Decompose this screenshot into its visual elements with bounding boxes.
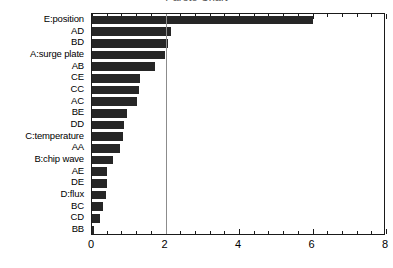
category-label: AE bbox=[72, 166, 84, 176]
x-axis-tick-label: 2 bbox=[161, 238, 167, 251]
value-axis-labels: 02468 bbox=[91, 238, 385, 256]
category-label: BB bbox=[72, 224, 84, 234]
category-axis-labels: E:positionADBDA:surge plateABCECCACBEDDC… bbox=[0, 13, 87, 235]
x-axis-tick-label: 4 bbox=[235, 238, 241, 251]
major-tick bbox=[386, 229, 387, 234]
category-label: BD bbox=[71, 37, 84, 47]
category-label: C:temperature bbox=[25, 131, 84, 141]
chart-title: Pareto Chart bbox=[0, 0, 393, 3]
category-label: BE bbox=[72, 107, 84, 117]
category-label: DE bbox=[71, 177, 84, 187]
x-axis-tick-label: 8 bbox=[382, 238, 388, 251]
x-axis-tick-label: 6 bbox=[308, 238, 314, 251]
category-label: CD bbox=[71, 212, 84, 222]
category-label: D:flux bbox=[61, 189, 84, 199]
category-label: CE bbox=[71, 72, 84, 82]
category-label: B:chip wave bbox=[34, 154, 84, 164]
category-label: A:surge plate bbox=[30, 49, 84, 59]
category-label: CC bbox=[71, 84, 84, 94]
category-label: AC bbox=[71, 96, 84, 106]
pareto-chart: Pareto Chart E:positionADBDA:surge plate… bbox=[0, 0, 393, 268]
category-label: AA bbox=[72, 142, 84, 152]
category-label: BC bbox=[71, 201, 84, 211]
reference-line-container bbox=[92, 14, 384, 234]
category-label: DD bbox=[71, 119, 84, 129]
reference-line bbox=[166, 14, 167, 234]
category-label: AD bbox=[71, 26, 84, 36]
major-tick bbox=[386, 14, 387, 19]
plot-area bbox=[91, 13, 385, 235]
x-axis-tick-label: 0 bbox=[88, 238, 94, 251]
category-label: E:position bbox=[44, 14, 84, 24]
category-label: AB bbox=[72, 61, 84, 71]
